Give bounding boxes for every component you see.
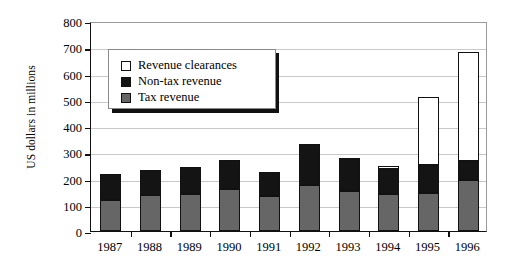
bar-segment-revenue-clearances-1994 (378, 166, 399, 169)
x-axis-tick-label: 1990 (216, 240, 241, 255)
bar-segment-tax-revenue-1992 (299, 185, 320, 231)
y-axis-tick-label: 700 (63, 43, 82, 56)
bar-segment-non-tax-revenue-1990 (219, 160, 240, 189)
legend-swatch-icon (121, 93, 131, 103)
bar-segment-non-tax-revenue-1991 (259, 172, 280, 196)
bar-segment-tax-revenue-1988 (140, 195, 161, 231)
y-axis-tick-label: 400 (63, 122, 82, 135)
y-axis-tick-label: 200 (63, 174, 82, 187)
bar-1992 (299, 144, 320, 231)
legend-item-label: Revenue clearances (138, 59, 237, 72)
legend-item: Non-tax revenue (121, 73, 222, 90)
y-axis-tick (85, 76, 91, 77)
bar-segment-revenue-clearances-1996 (458, 52, 479, 162)
y-axis-tick (85, 102, 91, 103)
legend-item-label: Non-tax revenue (138, 75, 222, 88)
bar-segment-tax-revenue-1993 (339, 191, 360, 231)
legend-swatch-icon (121, 61, 131, 71)
legend-item-label: Tax revenue (138, 91, 199, 104)
x-axis-tick-label: 1991 (256, 240, 281, 255)
bar-segment-non-tax-revenue-1996 (458, 161, 479, 179)
bar-segment-non-tax-revenue-1987 (100, 174, 121, 200)
bar-1993 (339, 158, 360, 232)
x-axis-tick-label: 1988 (137, 240, 162, 255)
legend-swatch-icon (121, 77, 131, 87)
bar-segment-tax-revenue-1995 (418, 193, 439, 231)
x-axis-tick-label: 1995 (415, 240, 440, 255)
bar-segment-non-tax-revenue-1994 (378, 169, 399, 194)
chart-legend: Revenue clearancesNon-tax revenueTax rev… (108, 49, 276, 109)
x-axis-tick (290, 231, 291, 237)
x-axis-tick-label: 1987 (97, 240, 122, 255)
y-axis-tick (85, 23, 91, 24)
bar-1988 (140, 170, 161, 231)
bar-segment-revenue-clearances-1995 (418, 97, 439, 165)
x-axis-tick (329, 231, 330, 237)
bar-1996 (458, 52, 479, 231)
stacked-bar-chart: US dollars in millions 01002003004005006… (0, 0, 505, 280)
y-axis-tick (85, 49, 91, 50)
bar-segment-non-tax-revenue-1992 (299, 144, 320, 185)
bar-1989 (180, 167, 201, 231)
bar-segment-non-tax-revenue-1989 (180, 167, 201, 194)
x-axis-tick-label: 1989 (177, 240, 202, 255)
legend-item: Revenue clearances (121, 57, 237, 74)
bar-segment-tax-revenue-1987 (100, 200, 121, 232)
x-axis-tick (369, 231, 370, 237)
x-axis-tick-label: 1992 (296, 240, 321, 255)
x-axis-tick (210, 231, 211, 237)
y-axis-tick-label: 300 (63, 148, 82, 161)
y-axis-title: US dollars in millions (25, 37, 37, 197)
y-axis-tick (85, 207, 91, 208)
bar-segment-non-tax-revenue-1993 (339, 158, 360, 192)
y-axis-tick-label: 100 (63, 201, 82, 214)
bar-segment-tax-revenue-1990 (219, 189, 240, 231)
x-axis-tick (409, 231, 410, 237)
x-axis-tick (448, 231, 449, 237)
x-axis-tick-label: 1996 (455, 240, 480, 255)
bar-segment-non-tax-revenue-1988 (140, 170, 161, 195)
bar-segment-tax-revenue-1991 (259, 196, 280, 231)
bar-segment-non-tax-revenue-1995 (418, 165, 439, 193)
y-axis-tick (85, 154, 91, 155)
x-axis-tick-label: 1993 (336, 240, 361, 255)
y-axis-tick-label: 500 (63, 96, 82, 109)
x-axis-tick (131, 231, 132, 237)
bar-1994 (378, 166, 399, 231)
bar-1995 (418, 97, 439, 231)
y-axis-tick (85, 233, 91, 234)
bar-1987 (100, 174, 121, 231)
bar-segment-tax-revenue-1989 (180, 194, 201, 231)
bar-1991 (259, 172, 280, 231)
y-axis-tick (85, 128, 91, 129)
y-axis-tick-label: 0 (76, 227, 82, 240)
y-axis-tick-label: 800 (63, 17, 82, 30)
legend-item: Tax revenue (121, 89, 199, 106)
bar-segment-tax-revenue-1994 (378, 194, 399, 231)
y-axis-tick-label: 600 (63, 69, 82, 82)
y-axis-tick (85, 181, 91, 182)
x-axis-tick (250, 231, 251, 237)
x-axis-tick (170, 231, 171, 237)
bar-1990 (219, 160, 240, 231)
x-axis-tick-label: 1994 (375, 240, 400, 255)
bar-segment-tax-revenue-1996 (458, 180, 479, 231)
